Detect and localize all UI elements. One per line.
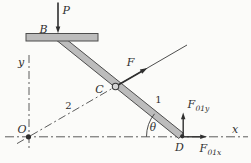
f01x-arrow — [184, 135, 207, 139]
point-d-dot — [180, 134, 184, 138]
label-point-b: B — [38, 23, 47, 36]
pin-c — [112, 83, 118, 89]
label-link-2: 2 — [65, 100, 71, 111]
label-axis-x: x — [232, 123, 239, 136]
origin-dot — [26, 134, 31, 139]
label-f01x-subscript: 01x — [208, 148, 223, 157]
label-force-p: P — [62, 4, 71, 17]
label-f01y: F 01y — [187, 98, 211, 113]
force-f-arrow — [116, 68, 148, 87]
label-f01x: F 01x — [199, 142, 223, 157]
label-f01y-subscript: 01y — [196, 104, 211, 113]
label-f01x-symbol: F — [199, 142, 208, 155]
label-point-d: D — [174, 141, 184, 154]
label-force-f: F — [126, 56, 135, 69]
force-p-arrow — [56, 3, 61, 34]
mechanism-diagram: P B y O 2 C F 1 θ x D F 01y F 01x — [0, 0, 251, 163]
link1-bar — [56, 34, 183, 138]
label-point-c: C — [95, 83, 104, 96]
label-axis-y: y — [17, 56, 25, 69]
label-angle-theta: θ — [150, 121, 157, 133]
diagram-canvas: P B y O 2 C F 1 θ x D F 01y F 01x — [0, 0, 251, 163]
label-f01y-symbol: F — [187, 98, 196, 111]
label-origin-o: O — [17, 123, 26, 136]
slider-block — [26, 34, 98, 42]
label-link-1: 1 — [155, 94, 161, 105]
